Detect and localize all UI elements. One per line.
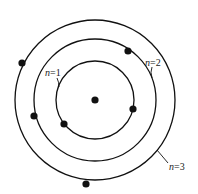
electron-n1 — [60, 120, 67, 127]
label-n1: n=1 — [45, 67, 61, 78]
label-n2: n=2 — [145, 57, 161, 68]
electron-n3 — [18, 59, 25, 66]
leader-n3 — [157, 150, 168, 163]
nucleus — [91, 96, 98, 103]
bohr-orbit-diagram: n=1 n=2 n=3 — [0, 0, 198, 194]
electron-n3 — [82, 180, 89, 187]
label-n3: n=3 — [169, 161, 185, 172]
leader-n2 — [151, 67, 152, 78]
electron-n2 — [124, 47, 131, 54]
electron-n2 — [30, 112, 37, 119]
electron-n1 — [129, 105, 136, 112]
leader-n1 — [57, 78, 59, 87]
